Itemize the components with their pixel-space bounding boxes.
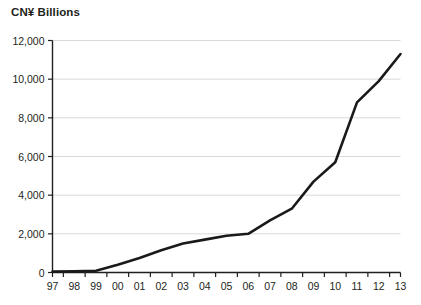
y-tick-label: 12,000 [0, 35, 45, 47]
x-tick-label: 11 [352, 280, 363, 292]
y-axis [48, 41, 53, 273]
x-tick-label: 97 [47, 280, 59, 292]
x-tick-label: 00 [112, 280, 124, 292]
y-tick-label: 4,000 [0, 189, 45, 201]
x-tick-label: 10 [329, 280, 341, 292]
x-tick-label: 07 [264, 280, 276, 292]
x-tick-label: 06 [242, 280, 254, 292]
x-tick-label: 04 [199, 280, 211, 292]
x-axis [53, 273, 401, 278]
data-series-line [53, 54, 401, 272]
x-tick-label: 05 [221, 280, 233, 292]
gridlines [53, 41, 401, 234]
x-tick-label: 13 [395, 280, 407, 292]
y-tick-label: 0 [0, 267, 45, 279]
y-tick-label: 10,000 [0, 73, 45, 85]
x-tick-label: 09 [308, 280, 320, 292]
x-tick-label: 03 [177, 280, 189, 292]
chart-container: CN¥ Billions 02,0004,0006,0008,00010,000… [0, 0, 421, 305]
y-tick-label: 8,000 [0, 112, 45, 124]
x-tick-label: 02 [155, 280, 167, 292]
plot-area [0, 0, 421, 305]
x-tick-label: 98 [68, 280, 80, 292]
y-tick-label: 6,000 [0, 151, 45, 163]
x-tick-label: 01 [134, 280, 146, 292]
x-tick-label: 08 [286, 280, 298, 292]
x-tick-label: 99 [90, 280, 102, 292]
y-tick-label: 2,000 [0, 228, 45, 240]
x-tick-label: 12 [373, 280, 385, 292]
